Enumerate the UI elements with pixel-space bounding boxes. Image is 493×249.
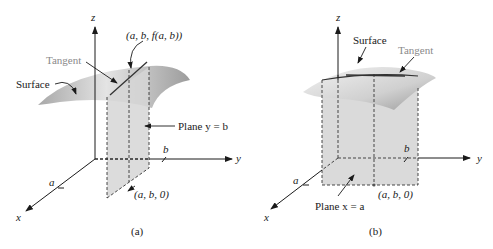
- tangent-label-b: Tangent: [398, 45, 433, 56]
- y-axis-label-a: y: [236, 153, 241, 164]
- tick-b-label-a: b: [163, 144, 169, 155]
- x-axis-a: [26, 159, 95, 211]
- base-point-label-a: (a, b, 0): [134, 189, 169, 200]
- tick-b-label-b: b: [404, 143, 410, 154]
- figure-b: [271, 27, 470, 209]
- plane-label-b: Plane x = a: [315, 201, 364, 212]
- z-axis-label-a: z: [91, 12, 95, 23]
- caption-a: (a): [131, 226, 143, 237]
- tick-a-label-a: a: [49, 177, 55, 188]
- y-axis-label-b: y: [477, 153, 482, 164]
- x-axis-label-a: x: [16, 212, 21, 223]
- plane-label-a: Plane y = b: [178, 121, 228, 132]
- point-label-a: (a, b, f(a, b)): [126, 30, 182, 41]
- x-axis-label-b: x: [264, 212, 269, 223]
- tangent-label-a: Tangent: [46, 55, 81, 66]
- tick-a-label-b: a: [293, 175, 299, 186]
- base-point-label-b: (a, b, 0): [378, 189, 413, 200]
- diagram-graphics: [0, 0, 493, 249]
- caption-b: (b): [369, 226, 382, 237]
- z-axis-label-b: z: [336, 12, 340, 23]
- surface-label-a: Surface: [16, 79, 50, 90]
- surface-label-b: Surface: [353, 35, 387, 46]
